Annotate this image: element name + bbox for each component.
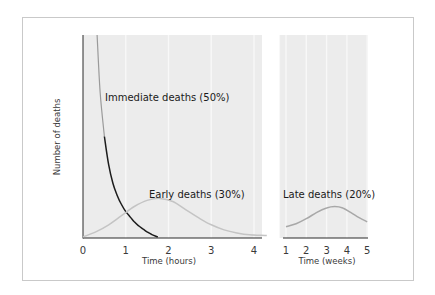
annotation-immediate-deaths: Immediate deaths (50%) <box>105 92 229 103</box>
y-axis-label: Number of deaths <box>52 98 62 175</box>
axis-break-gap <box>262 35 279 238</box>
tick-label-hours-2: 2 <box>165 245 171 256</box>
tick-label-weeks-4: 4 <box>344 245 350 256</box>
plot-area-weeks <box>279 35 368 238</box>
tick-label-weeks-1: 1 <box>283 245 289 256</box>
x-axis-label-weeks: Time (weeks) <box>298 256 356 266</box>
plot-area-hours <box>83 35 262 238</box>
chart: Number of deaths Time (hours) Time (week… <box>0 0 435 295</box>
tick-label-weeks-5: 5 <box>364 245 370 256</box>
tick-label-hours-1: 1 <box>123 245 129 256</box>
tick-label-weeks-3: 3 <box>323 245 329 256</box>
annotation-early-deaths: Early deaths (30%) <box>149 189 245 200</box>
tick-label-hours-4: 4 <box>251 245 257 256</box>
annotation-late-deaths: Late deaths (20%) <box>283 189 375 200</box>
x-axis-label-hours: Time (hours) <box>141 256 196 266</box>
tick-label-hours-0: 0 <box>80 245 86 256</box>
tick-label-weeks-2: 2 <box>303 245 309 256</box>
tick-label-hours-3: 3 <box>208 245 214 256</box>
